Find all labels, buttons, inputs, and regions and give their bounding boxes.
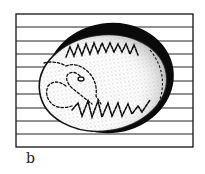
illustration	[0, 0, 205, 174]
figure-label: b	[26, 150, 35, 166]
